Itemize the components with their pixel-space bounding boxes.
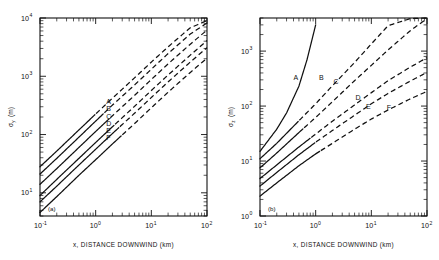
a-xtick-exponent: -1 <box>42 220 47 226</box>
a-yaxis-units: (m) <box>7 107 15 119</box>
a-xticklabel: 100 <box>90 220 101 230</box>
b-panel-label: (b) <box>268 205 276 212</box>
b-ytick-exponent: 0 <box>249 210 252 216</box>
b-ytick-exponent: 2 <box>249 100 252 106</box>
a-yticklabel: 104 <box>21 12 32 22</box>
a-xtick-exponent: 1 <box>154 220 157 226</box>
a-curve-label-C: C <box>106 113 111 120</box>
a-xaxis-title: x, DISTANCE DOWNWIND (km) <box>73 241 174 249</box>
b-yticklabel: 100 <box>241 210 252 220</box>
b-curve-D-dashed <box>311 58 427 138</box>
dispersion-coefficient-figure: 10-1100101102101102103104x, DISTANCE DOW… <box>0 0 439 260</box>
a-ytick-exponent: 4 <box>29 12 32 18</box>
b-yticklabel: 101 <box>241 155 252 165</box>
a-ytick-exponent: 2 <box>29 129 32 135</box>
b-xticklabel: 101 <box>365 220 376 230</box>
a-xticklabel: 101 <box>145 220 156 230</box>
b-plot-frame <box>260 18 427 216</box>
b-yticklabel: 103 <box>241 45 252 55</box>
a-ytick-exponent: 3 <box>29 70 32 76</box>
b-curve-label-C: C <box>334 78 339 85</box>
panel-b-sigma-z: 10-1100101102100101102103x, DISTANCE DOW… <box>220 0 439 260</box>
a-xtick-exponent: 2 <box>209 220 212 226</box>
b-yaxis-subscript: z <box>231 120 236 123</box>
b-curve-label-D: D <box>356 94 361 101</box>
b-xticklabel: 102 <box>421 220 432 230</box>
b-xticklabel: 100 <box>310 220 321 230</box>
b-curve-F-dashed <box>321 91 427 150</box>
a-curve-label-E: E <box>106 127 111 134</box>
panel-a-svg: 10-1100101102101102103104x, DISTANCE DOW… <box>0 0 219 260</box>
a-curve-E-dashed <box>120 48 207 127</box>
b-yticklabel: 102 <box>241 100 252 110</box>
b-curve-label-F: F <box>387 104 391 111</box>
b-curve-label-A: A <box>294 74 299 81</box>
a-curve-C-solid <box>40 119 109 185</box>
a-xtick-exponent: 0 <box>98 220 101 226</box>
b-xtick-exponent: 1 <box>374 220 377 226</box>
b-curve-D-solid <box>260 138 310 178</box>
a-curve-F-dashed <box>122 58 207 135</box>
a-xticklabel: 102 <box>201 220 212 230</box>
a-panel-label: (a) <box>48 205 56 212</box>
a-yticklabel: 103 <box>21 70 32 80</box>
a-ytick-exponent: 1 <box>29 187 32 193</box>
b-yaxis-title: σz (m) <box>227 107 236 127</box>
panel-b-svg: 10-1100101102100101102103x, DISTANCE DOW… <box>220 0 439 260</box>
a-curve-B-dashed <box>104 23 207 113</box>
a-curve-C-dashed <box>110 30 207 118</box>
b-xtick-exponent: -1 <box>262 220 267 226</box>
b-curve-F-solid <box>260 151 320 196</box>
a-curve-F-solid <box>40 136 121 213</box>
panel-a-sigma-y: 10-1100101102101102103104x, DISTANCE DOW… <box>0 0 219 260</box>
b-ytick-exponent: 3 <box>249 45 252 51</box>
b-xticklabel: 10-1 <box>254 220 267 230</box>
a-xticklabel: 10-1 <box>34 220 47 230</box>
b-xaxis-title: x, DISTANCE DOWNWIND (km) <box>293 241 394 249</box>
a-curve-D-solid <box>40 125 114 195</box>
b-yaxis-units: (m) <box>227 107 235 119</box>
a-yticklabel: 102 <box>21 129 32 139</box>
a-curve-label-D: D <box>106 120 111 127</box>
b-curve-B-solid <box>260 122 298 159</box>
b-ytick-exponent: 1 <box>249 155 252 161</box>
b-curve-label-E: E <box>366 103 371 110</box>
a-yaxis-title: σy (m) <box>7 107 16 127</box>
a-yticklabel: 101 <box>21 187 32 197</box>
b-xtick-exponent: 0 <box>318 220 321 226</box>
a-yaxis-subscript: y <box>11 120 16 123</box>
a-curve-label-F: F <box>106 134 110 141</box>
a-curve-label-B: B <box>106 105 111 112</box>
a-curve-label-A: A <box>106 98 111 105</box>
b-curve-E-solid <box>260 143 315 186</box>
b-xtick-exponent: 2 <box>429 220 432 226</box>
b-curve-label-B: B <box>319 74 324 81</box>
